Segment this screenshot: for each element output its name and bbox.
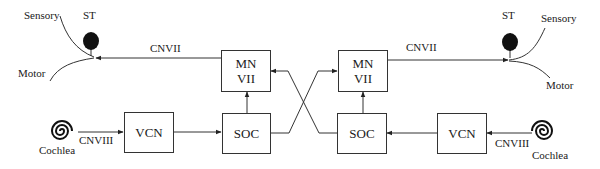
right-soc-box: SOC xyxy=(337,113,387,154)
right-motor-nerve xyxy=(509,61,550,78)
right-motor-label: Motor xyxy=(546,79,574,91)
right-stapedius-icon xyxy=(502,33,518,51)
right-mn-vii-box: MNVII xyxy=(338,50,388,92)
left-st-label: ST xyxy=(83,9,96,21)
left-mn-vii-box: MNVII xyxy=(221,50,271,92)
left-cochlea-icon xyxy=(52,121,72,139)
right-cnviii-label: CNVIII xyxy=(495,137,529,149)
left-motor-nerve xyxy=(50,58,94,81)
right-mn-line2: VII xyxy=(353,71,374,86)
right-st-label: ST xyxy=(502,9,515,21)
right-cnvii-label: CNVII xyxy=(406,41,437,53)
right-cochlea-icon xyxy=(532,121,552,139)
right-vcn-box: VCN xyxy=(437,113,487,154)
left-mn-line1: MN xyxy=(236,56,257,71)
left-cochlea-label: Cochlea xyxy=(39,144,75,156)
left-vcn-box: VCN xyxy=(124,112,174,153)
right-cochlea-label: Cochlea xyxy=(532,149,568,161)
left-motor-label: Motor xyxy=(18,67,46,79)
left-stapedius-icon xyxy=(83,32,99,50)
left-cnvii-label: CNVII xyxy=(150,42,181,54)
right-mn-line1: MN xyxy=(353,56,374,71)
left-soc-box: SOC xyxy=(222,113,271,154)
left-cnviii-label: CNVIII xyxy=(79,134,113,146)
left-sensory-label: Sensory xyxy=(24,9,59,21)
left-mn-line2: VII xyxy=(236,71,257,86)
right-soc-to-left-mn-arrow xyxy=(271,71,337,133)
right-sensory-label: Sensory xyxy=(541,12,576,24)
